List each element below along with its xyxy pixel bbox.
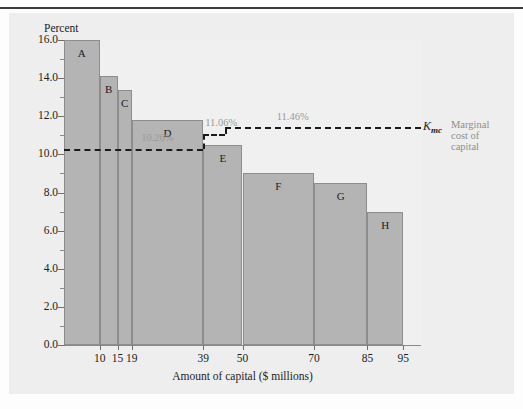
y-tick-label: 12.0 <box>12 110 58 121</box>
bar-label-a: A <box>64 47 100 59</box>
bar-h <box>367 212 403 345</box>
mcc-level-3-label: 11.46% <box>277 111 309 122</box>
mcc-riser <box>225 127 227 135</box>
x-tick <box>132 345 133 350</box>
y-tick-label: 2.0 <box>12 301 58 312</box>
bar-g <box>314 183 368 345</box>
mcc-level-3-segment <box>225 127 421 129</box>
x-tick <box>118 345 119 350</box>
bar-a <box>64 40 100 345</box>
marginal-cost-legend: Marginalcost ofcapital <box>451 119 489 152</box>
x-tick <box>314 345 315 350</box>
legend-line: capital <box>451 141 489 152</box>
x-tick <box>243 345 244 350</box>
x-tick-label: 10 <box>94 352 106 364</box>
bar-label-e: E <box>203 152 242 164</box>
x-tick-label: 15 <box>112 352 124 364</box>
bar-label-c: C <box>118 97 132 109</box>
bar-label-b: B <box>100 83 118 95</box>
bar-f <box>243 173 314 345</box>
y-axis-labels: 0.02.04.06.08.010.012.014.016.0 <box>0 0 58 409</box>
kmc-subscript: mc <box>431 125 442 135</box>
x-tick-label: 39 <box>197 352 209 364</box>
x-tick-label: 85 <box>362 352 374 364</box>
bar-b <box>100 76 118 345</box>
y-tick-label: 14.0 <box>12 72 58 83</box>
bar-label-f: F <box>243 180 314 192</box>
kmc-symbol: Kmc <box>423 119 442 135</box>
legend-line: Marginal <box>451 119 489 130</box>
x-tick-label: 95 <box>397 352 409 364</box>
y-tick-label: 8.0 <box>12 187 58 198</box>
bar-label-g: G <box>314 190 368 202</box>
legend-line: cost of <box>451 130 489 141</box>
x-tick-label: 70 <box>308 352 320 364</box>
top-rule-divider <box>0 7 523 9</box>
bar-label-h: H <box>367 219 403 231</box>
x-tick <box>367 345 368 350</box>
y-tick-label: 6.0 <box>12 225 58 236</box>
mcc-level-1-segment <box>64 149 203 151</box>
bar-c <box>118 90 132 345</box>
mcc-level-2-segment <box>203 134 224 136</box>
y-tick-major <box>58 345 65 346</box>
mcc-level-1-label: 10.26% <box>141 132 173 143</box>
x-axis-title: Amount of capital ($ millions) <box>64 370 421 382</box>
kmc-letter: K <box>423 119 431 133</box>
y-tick-label: 4.0 <box>12 263 58 274</box>
mcc-riser <box>203 134 205 149</box>
bar-e <box>203 145 242 345</box>
y-tick-label: 0.0 <box>12 339 58 350</box>
x-tick-label: 19 <box>126 352 138 364</box>
y-tick-label: 10.0 <box>12 148 58 159</box>
figure-container: Percent 0.02.04.06.08.010.012.014.016.0 … <box>0 0 523 409</box>
y-tick-label: 16.0 <box>12 34 58 45</box>
x-tick <box>100 345 101 350</box>
x-tick <box>203 345 204 350</box>
x-tick-label: 50 <box>237 352 249 364</box>
bar-d <box>132 120 203 345</box>
x-tick <box>403 345 404 350</box>
